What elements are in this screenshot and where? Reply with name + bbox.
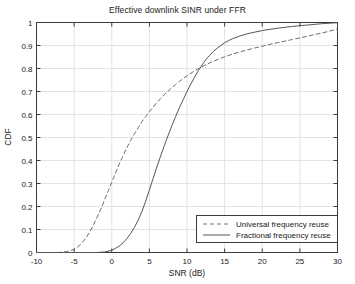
y-tick-label: 0.2 bbox=[21, 203, 33, 212]
y-tick-label: 0.9 bbox=[21, 42, 33, 51]
x-axis-label: SNR (dB) bbox=[169, 268, 206, 278]
x-tick-label: -5 bbox=[71, 257, 79, 266]
x-tick-label: 0 bbox=[110, 257, 115, 266]
x-tick-label: 30 bbox=[333, 257, 342, 266]
x-tick-label: 5 bbox=[147, 257, 152, 266]
x-tick-label: 15 bbox=[220, 257, 229, 266]
y-axis-label: CDF bbox=[3, 128, 13, 145]
y-tick-label: 1 bbox=[28, 19, 33, 28]
legend-label-fractional-frequency-reuse: Fractional frequency reuse bbox=[236, 231, 331, 240]
chart-legend: Universal frequency reuse Fractional fre… bbox=[197, 216, 338, 243]
x-tick-labels: -10-5051015202530 bbox=[31, 257, 343, 266]
y-tick-label: 0.1 bbox=[21, 226, 33, 235]
y-tick-label: 0 bbox=[28, 249, 33, 258]
y-tick-label: 0.4 bbox=[21, 157, 33, 166]
y-tick-label: 0.7 bbox=[21, 88, 33, 97]
figure-canvas: Effective downlink SINR under FFR -10-50… bbox=[0, 0, 355, 284]
y-tick-label: 0.6 bbox=[21, 111, 33, 120]
y-tick-label: 0.5 bbox=[21, 134, 33, 143]
x-tick-label: -10 bbox=[31, 257, 43, 266]
legend-label-universal-frequency-reuse: Universal frequency reuse bbox=[236, 220, 329, 229]
chart-plot-area: -10-5051015202530 00.10.20.30.40.50.60.7… bbox=[0, 0, 355, 284]
x-tick-label: 20 bbox=[258, 257, 267, 266]
x-tick-label: 25 bbox=[295, 257, 304, 266]
x-tick-label: 10 bbox=[183, 257, 192, 266]
y-tick-label: 0.3 bbox=[21, 180, 33, 189]
y-tick-label: 0.8 bbox=[21, 65, 33, 74]
y-tick-labels: 00.10.20.30.40.50.60.70.80.91 bbox=[21, 19, 33, 258]
